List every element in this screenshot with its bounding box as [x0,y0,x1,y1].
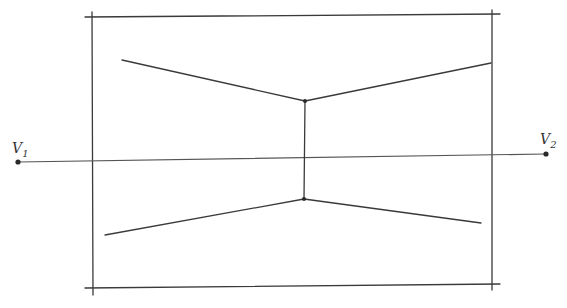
vertical-edge-line [304,101,305,199]
perspective-diagram [0,0,567,308]
frame-left-line [92,12,93,295]
horizon-line [18,154,546,162]
vanishing-point-v1 [15,159,20,164]
top-junction-point [303,99,307,103]
frame-top-line [85,14,500,17]
upper-left-line [122,60,305,101]
lower-left-line [105,199,304,235]
vanishing-point-v2-label: V2 [540,132,557,150]
vanishing-point-v2 [543,151,548,156]
upper-right-line [305,63,491,101]
vanishing-point-v1-label: V1 [12,141,29,159]
frame-bottom-line [85,284,500,288]
lower-right-line [304,199,481,223]
bottom-junction-point [302,197,306,201]
